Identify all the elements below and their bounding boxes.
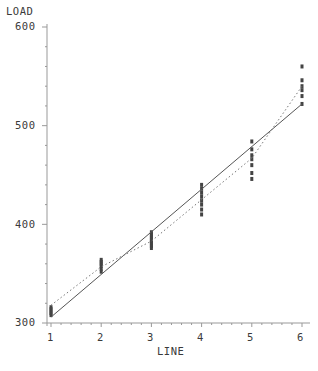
data-point — [200, 183, 203, 187]
data-point — [301, 64, 304, 68]
data-point — [301, 84, 304, 88]
data-point — [200, 191, 203, 195]
data-point — [100, 258, 103, 262]
data-point — [301, 78, 304, 82]
data-point — [250, 163, 253, 167]
means-line — [51, 86, 302, 305]
data-point — [250, 153, 253, 157]
data-point — [200, 195, 203, 199]
data-point — [50, 305, 53, 309]
data-point — [301, 94, 304, 98]
fit-line — [51, 104, 302, 317]
data-point — [301, 88, 304, 92]
data-point — [250, 177, 253, 181]
plot-area — [0, 0, 318, 371]
data-point — [200, 212, 203, 216]
data-point — [250, 139, 253, 143]
data-point — [250, 171, 253, 175]
data-point — [200, 208, 203, 212]
data-point — [200, 203, 203, 207]
